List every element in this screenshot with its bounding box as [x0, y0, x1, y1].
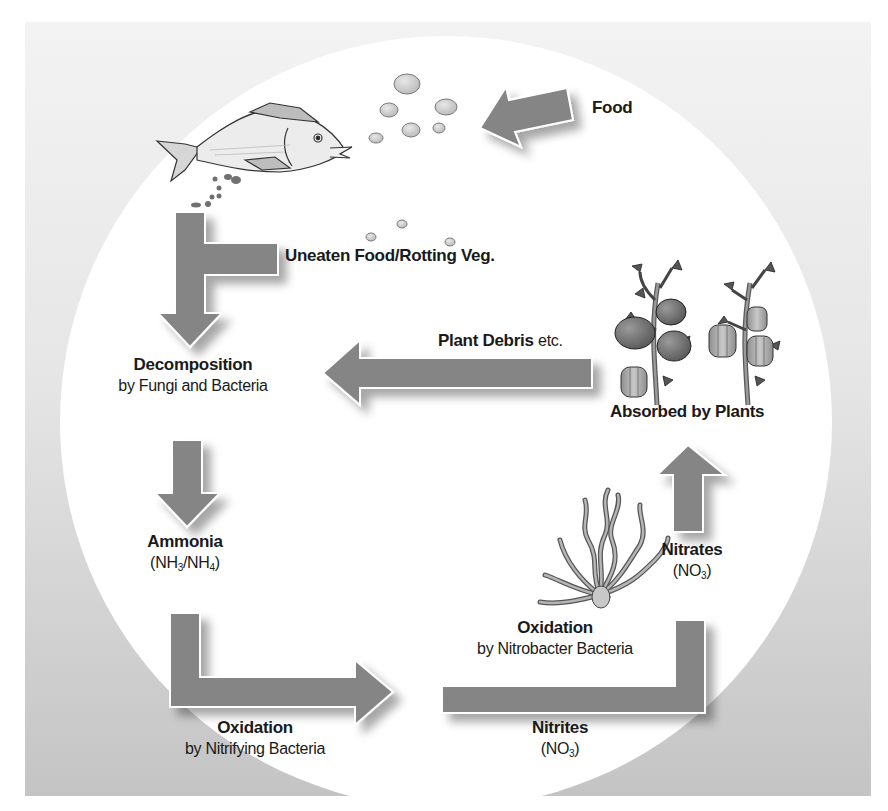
nitrites-formula-sub: 3: [569, 748, 574, 759]
ammonia-formula-b-sub: 4: [210, 562, 215, 573]
absorbed-title: Absorbed by Plants: [610, 402, 764, 421]
label-nitrates: Nitrates (NO3): [652, 540, 732, 581]
nitrites-formula: (NO3): [510, 740, 610, 759]
label-oxidation-nitrobacter: Oxidation by Nitrobacter Bacteria: [460, 618, 650, 658]
label-ammonia: Ammonia (NH3/NH4): [130, 532, 240, 573]
nitrites-title: Nitrites: [510, 718, 610, 738]
ammonia-formula-a-sub: 3: [178, 562, 183, 573]
food-title: Food: [592, 98, 632, 117]
nitrates-formula: (NO3): [652, 562, 732, 581]
label-food: Food: [592, 98, 632, 118]
oxidation-nitrifying-title: Oxidation: [170, 718, 340, 738]
decomposition-title: Decomposition: [108, 355, 278, 375]
nitrates-title: Nitrates: [652, 540, 732, 560]
label-nitrites: Nitrites (NO3): [510, 718, 610, 759]
oxidation-nitrifying-subtitle: by Nitrifying Bacteria: [170, 740, 340, 758]
oxidation-nitrobacter-subtitle: by Nitrobacter Bacteria: [460, 640, 650, 658]
label-absorbed-by-plants: Absorbed by Plants: [610, 402, 764, 422]
ammonia-formula-a: NH: [155, 554, 178, 571]
plant-debris-suffix: etc.: [538, 332, 563, 349]
label-plant-debris: Plant Debris etc.: [438, 331, 563, 351]
nitrogen-cycle-diagram: Food Uneaten Food/Rotting Veg. Decomposi…: [0, 0, 888, 811]
label-decomposition: Decomposition by Fungi and Bacteria: [108, 355, 278, 395]
plant-debris-title: Plant Debris: [438, 331, 534, 350]
decomposition-subtitle: by Fungi and Bacteria: [108, 377, 278, 395]
oxidation-nitrobacter-title: Oxidation: [460, 618, 650, 638]
ammonia-formula: (NH3/NH4): [130, 554, 240, 573]
label-oxidation-nitrifying: Oxidation by Nitrifying Bacteria: [170, 718, 340, 758]
label-uneaten-food: Uneaten Food/Rotting Veg.: [285, 246, 495, 266]
uneaten-title: Uneaten Food/Rotting Veg.: [285, 246, 495, 265]
nitrites-formula-base: NO: [546, 740, 569, 757]
ammonia-title: Ammonia: [130, 532, 240, 552]
nitrates-formula-sub: 3: [701, 570, 706, 581]
ammonia-formula-b: NH: [187, 554, 210, 571]
nitrates-formula-base: NO: [678, 562, 701, 579]
